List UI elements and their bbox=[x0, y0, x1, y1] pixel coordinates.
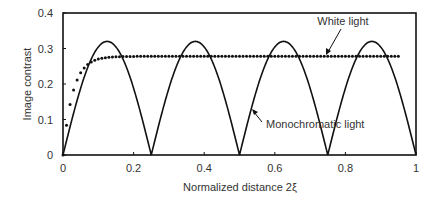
white-light-dot bbox=[259, 55, 262, 58]
white-light-dot bbox=[220, 55, 223, 58]
white-light-dot bbox=[125, 55, 128, 58]
x-tick-label: 0.4 bbox=[197, 162, 212, 174]
white-light-dot bbox=[79, 71, 82, 74]
white-light-dot bbox=[344, 55, 347, 58]
white-light-dot bbox=[104, 56, 107, 59]
white-light-dot bbox=[65, 124, 68, 127]
white-light-dot bbox=[358, 55, 361, 58]
white-light-dot bbox=[266, 55, 269, 58]
white-light-dot bbox=[337, 55, 340, 58]
white-light-dot bbox=[185, 55, 188, 58]
white-light-dot bbox=[242, 55, 245, 58]
white-light-dot bbox=[372, 55, 375, 58]
white-light-dot bbox=[224, 55, 227, 58]
arrow-white-light bbox=[328, 29, 341, 52]
white-light-dot bbox=[136, 55, 139, 58]
x-tick-label: 1 bbox=[413, 162, 419, 174]
white-light-dot bbox=[174, 55, 177, 58]
white-light-dot bbox=[319, 55, 322, 58]
white-light-dot bbox=[333, 55, 336, 58]
white-light-dot bbox=[273, 55, 276, 58]
x-tick-label: 0.2 bbox=[126, 162, 141, 174]
white-light-dot bbox=[393, 55, 396, 58]
white-light-dot bbox=[114, 55, 117, 58]
white-light-dot bbox=[189, 55, 192, 58]
arrowhead-icon bbox=[252, 109, 258, 115]
white-light-dot bbox=[287, 55, 290, 58]
x-axis-label: Normalized distance 2ξ bbox=[183, 181, 297, 193]
white-light-dot bbox=[72, 89, 75, 92]
white-light-dot bbox=[93, 59, 96, 62]
annotation-monochromatic-light: Monochromatic light bbox=[266, 118, 364, 130]
white-light-dot bbox=[347, 55, 350, 58]
white-light-dot bbox=[153, 55, 156, 58]
contrast-chart: 00.20.40.60.8100.10.20.30.4 White lightM… bbox=[0, 0, 440, 204]
series-white-light bbox=[62, 55, 400, 157]
white-light-dot bbox=[132, 55, 135, 58]
white-light-dot bbox=[227, 55, 230, 58]
white-light-dot bbox=[217, 55, 220, 58]
white-light-dot bbox=[178, 55, 181, 58]
white-light-dot bbox=[129, 55, 132, 58]
white-light-dot bbox=[90, 60, 93, 63]
white-light-dot bbox=[203, 55, 206, 58]
white-light-dot bbox=[122, 55, 125, 58]
white-light-dot bbox=[192, 55, 195, 58]
white-light-dot bbox=[206, 55, 209, 58]
white-light-dot bbox=[397, 55, 400, 58]
y-tick-label: 0 bbox=[47, 149, 53, 161]
white-light-dot bbox=[238, 55, 241, 58]
x-tick-label: 0.8 bbox=[338, 162, 353, 174]
arrowhead-icon bbox=[326, 48, 331, 55]
white-light-dot bbox=[167, 55, 170, 58]
white-light-dot bbox=[323, 55, 326, 58]
white-light-dot bbox=[86, 63, 89, 66]
white-light-dot bbox=[390, 55, 393, 58]
white-light-dot bbox=[277, 55, 280, 58]
plot-frame bbox=[63, 13, 416, 155]
white-light-dot bbox=[330, 55, 333, 58]
white-light-dot bbox=[312, 55, 315, 58]
white-light-dot bbox=[231, 55, 234, 58]
white-light-dot bbox=[263, 55, 266, 58]
x-tick-label: 0 bbox=[60, 162, 66, 174]
white-light-dot bbox=[383, 55, 386, 58]
white-light-dot bbox=[100, 57, 103, 60]
white-light-dot bbox=[249, 55, 252, 58]
white-light-dot bbox=[157, 55, 160, 58]
y-tick-label: 0.2 bbox=[38, 78, 53, 90]
white-light-dot bbox=[252, 55, 255, 58]
white-light-dot bbox=[171, 55, 174, 58]
white-light-dot bbox=[326, 55, 329, 58]
white-light-dot bbox=[340, 55, 343, 58]
white-light-dot bbox=[270, 55, 273, 58]
white-light-dot bbox=[111, 55, 114, 58]
y-tick-label: 0.3 bbox=[38, 43, 53, 55]
white-light-dot bbox=[365, 55, 368, 58]
white-light-dot bbox=[164, 55, 167, 58]
white-light-dot bbox=[139, 55, 142, 58]
white-light-dot bbox=[298, 55, 301, 58]
white-light-dot bbox=[146, 55, 149, 58]
white-light-dot bbox=[294, 55, 297, 58]
white-light-dot bbox=[351, 55, 354, 58]
x-tick-label: 0.6 bbox=[267, 162, 282, 174]
white-light-dot bbox=[302, 55, 305, 58]
white-light-dot bbox=[196, 55, 199, 58]
white-light-dot bbox=[210, 55, 213, 58]
y-axis-label: Image contrast bbox=[21, 48, 33, 121]
y-tick-label: 0.4 bbox=[38, 7, 53, 19]
white-light-dot bbox=[83, 66, 86, 69]
white-light-dot bbox=[213, 55, 216, 58]
white-light-dot bbox=[309, 55, 312, 58]
white-light-dot bbox=[118, 55, 121, 58]
series-layer bbox=[62, 41, 417, 156]
white-light-dot bbox=[379, 55, 382, 58]
white-light-dot bbox=[182, 55, 185, 58]
white-light-dot bbox=[245, 55, 248, 58]
annotation-white-light: White light bbox=[317, 15, 368, 27]
white-light-dot bbox=[234, 55, 237, 58]
white-light-dot bbox=[160, 55, 163, 58]
white-light-dot bbox=[284, 55, 287, 58]
white-light-dot bbox=[316, 55, 319, 58]
